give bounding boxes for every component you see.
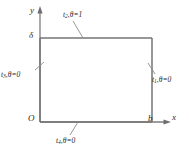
leader-line-t2 xyxy=(73,21,83,38)
domain-rectangle xyxy=(40,38,152,122)
boundary-condition-value-t2: θ=1 xyxy=(70,10,83,19)
boundary-condition-value-t3: θ=0 xyxy=(8,70,21,79)
x-axis-tick-b: b xyxy=(148,114,153,123)
boundary-condition-value-t1: θ=0 xyxy=(159,75,172,84)
boundary-label-t3: t3,θ=0 xyxy=(1,71,20,80)
figure-canvas: y δ O b x t2,θ=1 t1,θ=0 t3,θ=0 t4,θ=0 xyxy=(0,0,189,153)
boundary-label-t2: t2,θ=1 xyxy=(63,11,82,20)
y-axis-tick-delta: δ xyxy=(29,31,33,40)
boundary-condition-value-t4: θ=0 xyxy=(63,136,76,145)
leader-line-t4 xyxy=(70,122,78,135)
origin-label: O xyxy=(28,114,35,123)
x-axis-label: x xyxy=(172,113,176,122)
y-axis-label: y xyxy=(30,6,34,15)
boundary-label-t1: t1,θ=0 xyxy=(152,76,171,85)
boundary-label-t4: t4,θ=0 xyxy=(56,137,75,146)
